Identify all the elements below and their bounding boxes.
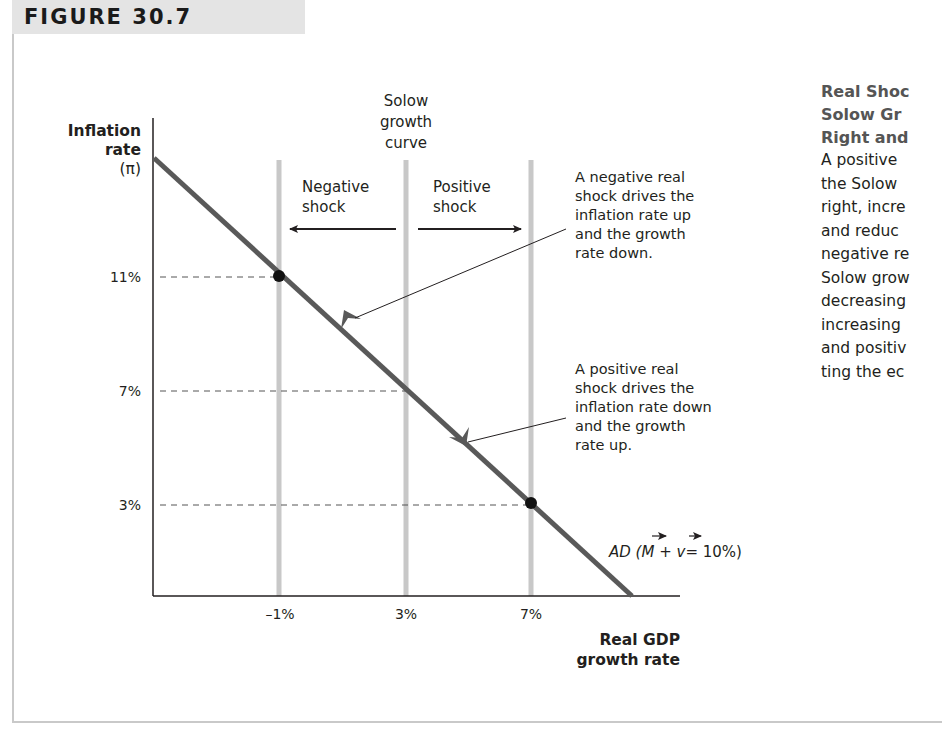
y-axis-label-line2: rate [105, 141, 141, 159]
negative-shock-label-line2: shock [302, 198, 346, 216]
positive-note-line2: shock drives the [575, 380, 694, 396]
caption-body-line: negative re [821, 243, 946, 267]
caption-body-line: right, incre [821, 196, 946, 220]
x-tick-7: 7% [520, 606, 542, 622]
caption-title-line: Real Shoc [821, 80, 946, 103]
equilibrium-dot-positive [525, 497, 537, 509]
y-tick-7: 7% [119, 383, 141, 399]
positive-note-leader [468, 418, 566, 442]
ad-curve [154, 158, 632, 596]
negative-shock-label-line1: Negative [302, 178, 369, 196]
y-tick-11: 11% [110, 269, 141, 285]
caption-title-line: Right and [821, 126, 946, 149]
caption-body-line: Solow grow [821, 267, 946, 291]
equilibrium-dot-negative [273, 270, 285, 282]
positive-note-line3: inflation rate down [575, 399, 712, 415]
positive-shock-label-line2: shock [433, 198, 477, 216]
caption-body-line: and positiv [821, 337, 946, 361]
positive-note-line5: rate up. [575, 437, 632, 453]
positive-shock-label-line1: Positive [433, 178, 491, 196]
negative-note-line1: A negative real [575, 169, 685, 185]
ad-label-m: M [641, 543, 654, 561]
caption-body-line: and reduc [821, 220, 946, 244]
negative-note-line4: and the growth [575, 226, 686, 242]
caption-body-line: decreasing [821, 290, 946, 314]
negative-note-line5: rate down. [575, 245, 653, 261]
solow-label-line2: growth [380, 113, 432, 131]
x-tick-neg1: –1% [265, 606, 294, 622]
caption-body-line: increasing [821, 314, 946, 338]
ad-arrow-up-icon [341, 310, 361, 329]
negative-note-line2: shock drives the [575, 188, 694, 204]
ad-label-prefix: AD ( [608, 543, 643, 561]
y-axis-label-line3: (π) [120, 160, 141, 178]
positive-note-line4: and the growth [575, 418, 686, 434]
positive-note-line1: A positive real [575, 361, 679, 377]
negative-note-line3: inflation rate up [575, 207, 691, 223]
x-tick-3: 3% [395, 606, 417, 622]
x-axis-label-line1: Real GDP [599, 631, 680, 649]
x-axis-label-line2: growth rate [576, 651, 680, 669]
y-axis-label-line1: Inflation [68, 122, 141, 140]
caption-title-line: Solow Gr [821, 103, 946, 126]
caption-body-line: A positive [821, 149, 946, 173]
negative-note-leader [355, 229, 566, 318]
caption-body-line: ting the ec [821, 361, 946, 385]
ad-label-plus: + [654, 543, 676, 561]
y-tick-3: 3% [119, 497, 141, 513]
solow-label-line1: Solow [384, 92, 428, 110]
ad-label-suffix: = 10%) [685, 543, 742, 561]
caption-body-line: the Solow [821, 173, 946, 197]
ad-label: AD (M + v= 10%) [608, 543, 742, 561]
solow-label-line3: curve [385, 134, 427, 152]
figure-caption: Real Shoc Solow Gr Right and A positive … [821, 80, 946, 384]
